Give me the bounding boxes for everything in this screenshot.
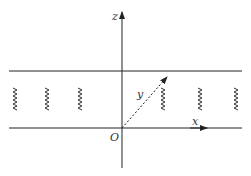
spring-6 [234, 88, 238, 110]
spring-5 [198, 88, 202, 110]
spring-4 [161, 88, 165, 110]
spring-3 [78, 88, 82, 110]
y-axis-label: y [136, 88, 144, 101]
y-axis-dashed [122, 77, 167, 128]
origin-label: O [110, 131, 119, 144]
spring-2 [45, 88, 49, 110]
x-axis-label: x [192, 115, 199, 128]
z-axis-label: z [111, 10, 118, 23]
spring-1 [13, 88, 17, 110]
springs [13, 88, 238, 110]
diagram-canvas: z x y O [0, 0, 251, 176]
